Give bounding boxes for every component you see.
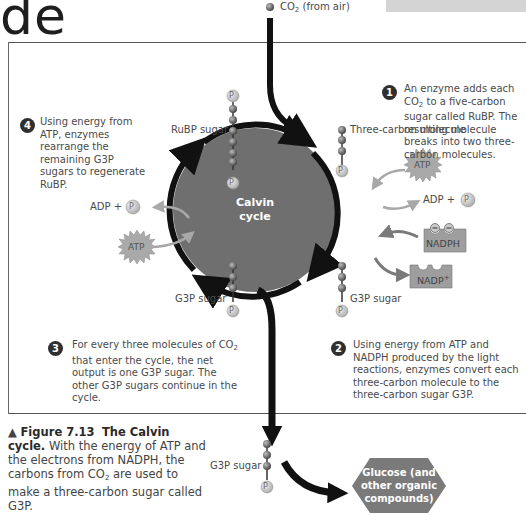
- phosphate-rubp-top-letter: P: [229, 90, 234, 102]
- step-1-text: An enzyme adds each CO2 to a five-carbon…: [404, 83, 526, 161]
- nadp-text: NADP: [417, 275, 444, 286]
- phosphate-g3p-right-letter: P: [338, 305, 343, 317]
- step-3-text-b: that enter the cycle, the net output is …: [72, 355, 237, 404]
- g3p-output-arrow: [258, 290, 272, 436]
- g3p-right-label: G3P sugar: [350, 293, 401, 305]
- adp-left-label: ADP +: [90, 201, 122, 213]
- center-label-line2: cycle: [215, 210, 295, 224]
- glucose-label-line1: Glucose (and: [359, 466, 439, 479]
- nadph-label: NADPH: [426, 238, 460, 250]
- co2-input-arrow: [270, 18, 293, 127]
- adp-right-label: ADP +: [423, 194, 455, 206]
- atp-left-label: ATP: [128, 241, 144, 253]
- step-3-sub: 2: [233, 344, 237, 352]
- phosphate-g3p-output-letter: P: [263, 481, 268, 493]
- glucose-label-line2: other organic: [359, 479, 439, 492]
- caption-figure-number: Figure 7.13: [21, 425, 95, 439]
- nadph-arrow: [385, 232, 418, 237]
- center-label-line1: Calvin: [215, 196, 295, 210]
- g3p-left-label: G3P sugar: [175, 293, 226, 305]
- step-1-badge: 1: [382, 85, 397, 100]
- step-2-text: Using energy from ATP and NADPH produced…: [353, 339, 525, 402]
- nadp-arrow: [375, 258, 403, 275]
- phosphate-right-letter: P: [464, 194, 469, 206]
- calvin-cycle-label: Calvin cycle: [215, 196, 295, 224]
- glucose-label: Glucose (and other organic compounds): [359, 466, 439, 505]
- phosphate-three-carbon-letter: P: [338, 165, 343, 177]
- phosphate-g3p-left-letter: P: [229, 305, 234, 317]
- glucose-arrow: [284, 462, 338, 493]
- co2-input-label: CO2 (from air): [280, 1, 350, 16]
- step-2-badge: 2: [331, 341, 346, 356]
- atp-right-arrow: [375, 170, 405, 185]
- figure-caption: ▲ Figure 7.13 The Calvin cycle. With the…: [8, 425, 206, 513]
- phosphate-rubp-letter: P: [229, 177, 234, 189]
- phosphate-left-letter: P: [129, 201, 134, 213]
- caption-marker: ▲: [8, 425, 17, 439]
- step-4-badge: 4: [20, 118, 35, 133]
- co2-carbon-ball: [266, 3, 274, 11]
- adp-right-arrow: [383, 203, 415, 209]
- step-3-badge: 3: [48, 341, 63, 356]
- nadp-charge: +: [444, 274, 450, 282]
- step-3-text-a: For every three molecules of CO: [72, 339, 233, 350]
- rubp-sugar-label: RuBP sugar: [171, 124, 228, 136]
- co2-formula: CO: [280, 1, 295, 12]
- step-3-text: For every three molecules of CO2 that en…: [72, 339, 240, 405]
- step-4-text: Using energy from ATP, enzymes rearrange…: [40, 116, 148, 191]
- co2-suffix: (from air): [299, 1, 349, 12]
- nadp-label: NADP+: [417, 272, 450, 287]
- g3p-output-label: G3P sugar: [210, 460, 261, 472]
- glucose-label-line3: compounds): [359, 492, 439, 505]
